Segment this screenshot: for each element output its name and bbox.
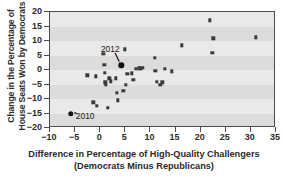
data-point — [106, 106, 109, 109]
y-tick-label: −15 — [2, 108, 42, 118]
data-point — [124, 83, 127, 86]
y-tick-label: 10 — [2, 35, 42, 45]
data-point — [141, 66, 144, 69]
x-tick-label: 35 — [260, 132, 285, 142]
data-point — [95, 104, 98, 107]
data-point — [180, 44, 183, 47]
scatter-chart-figure: Change in the Percentage of House Seats … — [0, 0, 285, 176]
data-point — [114, 77, 117, 80]
data-point — [103, 71, 106, 74]
data-point — [163, 67, 166, 70]
x-axis-title: Difference in Percentage of High-Quality… — [10, 148, 278, 172]
data-point — [159, 83, 162, 86]
data-point — [211, 51, 214, 54]
data-point — [130, 71, 133, 74]
data-point — [103, 63, 106, 66]
data-point — [122, 89, 125, 92]
data-point — [123, 47, 126, 50]
data-point — [170, 70, 173, 73]
data-point — [132, 78, 135, 81]
data-point — [126, 72, 129, 75]
background-band — [50, 27, 274, 42]
data-point — [94, 75, 97, 78]
data-point — [161, 80, 164, 83]
data-point — [154, 69, 157, 72]
y-tick-label: 5 — [2, 50, 42, 60]
data-point — [116, 98, 119, 101]
data-point — [212, 37, 215, 40]
y-tick-label: 20 — [2, 6, 42, 16]
data-point — [109, 80, 112, 83]
data-point — [208, 18, 211, 21]
y-tick-label: −10 — [2, 93, 42, 103]
y-tick-label: −20 — [2, 122, 42, 132]
annotation-label-2012: 2012 — [101, 44, 120, 54]
x-axis-title-line1: Difference in Percentage of High-Quality… — [10, 148, 278, 160]
background-band — [50, 56, 274, 71]
y-tick-label: −5 — [2, 79, 42, 89]
y-tick-label: 0 — [2, 64, 42, 74]
y-tick-label: 15 — [2, 21, 42, 31]
data-point — [115, 91, 118, 94]
data-point — [254, 36, 257, 39]
data-point — [104, 83, 107, 86]
x-axis-title-line2: (Democrats Minus Republicans) — [10, 160, 278, 172]
data-point — [153, 56, 156, 59]
data-point — [85, 74, 88, 77]
annotation-label-2010: 2010 — [76, 111, 95, 121]
plot-area: 20122010 — [49, 11, 275, 127]
